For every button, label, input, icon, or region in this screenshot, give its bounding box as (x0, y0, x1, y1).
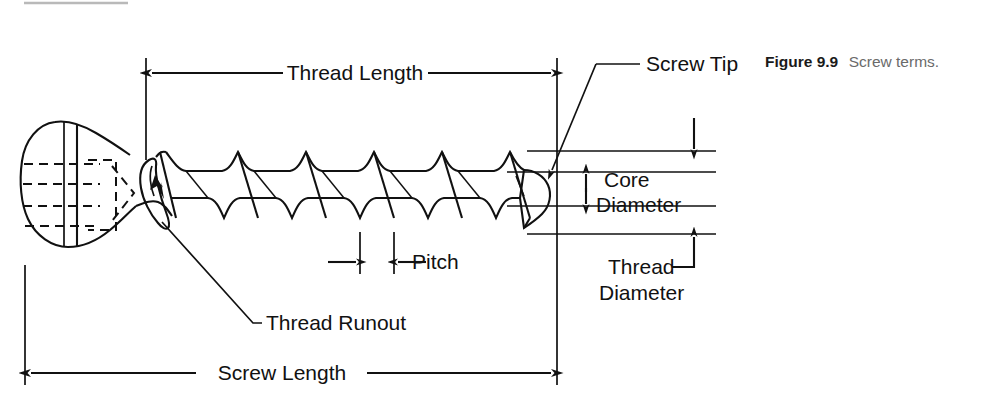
thread-runout-label: Thread Runout (266, 311, 406, 334)
thread-back-1 (186, 171, 208, 198)
thread-flank-3 (374, 152, 394, 218)
screw-head-outline (21, 122, 136, 247)
figure-root: Thread Length Screw Tip Core Diameter Th… (0, 0, 1004, 404)
runout-inner-arrow (150, 175, 164, 199)
figure-caption-text: Figure 9.9 Screw terms. (765, 53, 939, 70)
thread-flank-2 (306, 152, 326, 218)
screw-tip-leader-diagonal (552, 64, 596, 170)
screw-tip-label: Screw Tip (646, 52, 738, 75)
thread-back-5 (458, 171, 480, 198)
thread-diameter-label-line1: Thread (608, 255, 675, 278)
core-diameter-label-line2: Diameter (596, 193, 681, 216)
screw-body-group (21, 122, 550, 247)
dimension-pitch: Pitch (328, 232, 459, 274)
dimension-thread-length: Thread Length (146, 58, 551, 160)
thread-diameter-label-line2: Diameter (599, 281, 684, 304)
figure-caption-label: Figure 9.9 (765, 53, 839, 70)
thread-crest-bottom-profile (172, 198, 520, 218)
thread-length-label: Thread Length (287, 61, 424, 84)
thread-crest-top-profile (166, 152, 524, 171)
screw-length-label: Screw Length (218, 361, 346, 384)
thread-flank-4 (442, 152, 462, 218)
figure-caption-body: Screw terms. (849, 53, 939, 70)
thread-back-4 (390, 171, 412, 198)
leader-screw-tip: Screw Tip (552, 52, 738, 170)
leader-thread-runout: Thread Runout (162, 222, 406, 334)
pitch-label: Pitch (412, 250, 459, 273)
thread-back-3 (322, 171, 344, 198)
hidden-recess-outline (88, 160, 116, 230)
thread-diameter-leader-bottom (672, 237, 694, 267)
core-diameter-label-line1: Core (604, 168, 650, 191)
thread-flank-1 (238, 152, 258, 218)
screw-terms-diagram: Thread Length Screw Tip Core Diameter Th… (0, 0, 1004, 404)
thread-runout-leader (162, 222, 262, 323)
figure-caption: Figure 9.9 Screw terms. (765, 53, 939, 70)
thread-back-2 (254, 171, 276, 198)
